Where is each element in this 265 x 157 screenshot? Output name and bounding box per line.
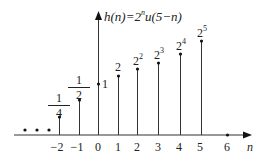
value-label-quarter: 1 4 <box>48 92 70 119</box>
tick-label: −1 <box>71 141 84 153</box>
title-text: h(n)=2 <box>104 9 141 24</box>
tick-label: 5 <box>197 141 203 153</box>
tick-label: 0 <box>95 141 101 153</box>
value-label-2: 2 <box>115 61 121 73</box>
tick-label: 1 <box>115 141 121 153</box>
frac-numerator: 1 <box>76 73 82 87</box>
frac-denominator: 4 <box>56 106 62 120</box>
function-title: h(n)=2nu(5−n) <box>104 8 182 25</box>
frac-denominator: 2 <box>76 88 82 102</box>
value-label-2-pow-5: 25 <box>197 25 207 39</box>
tick-label: −2 <box>51 141 64 153</box>
frac-numerator: 1 <box>56 91 62 105</box>
value-label-2-pow-3: 23 <box>154 47 164 61</box>
x-axis-label: n <box>247 141 253 153</box>
y-axis-arrow-icon <box>95 11 102 20</box>
tick-label: 4 <box>176 141 182 153</box>
value-label-1: 1 <box>102 78 108 90</box>
tick-label: 6 <box>224 141 230 153</box>
stem-plot: h(n)=2nu(5−n) 1 4 1 2 1 2 22 23 24 25 −2… <box>0 0 265 157</box>
ellipsis-dot <box>23 128 26 131</box>
value-label-2-pow-4: 24 <box>176 38 186 52</box>
value-label-2-pow-2: 22 <box>133 53 143 67</box>
title-suffix: u(5−n) <box>145 9 182 24</box>
ellipsis-dot <box>35 128 38 131</box>
tick-label: 2 <box>134 141 140 153</box>
ellipsis-dot <box>47 128 50 131</box>
value-label-half: 1 2 <box>68 74 90 101</box>
tick-label: 3 <box>155 141 161 153</box>
x-axis-arrow-icon <box>243 132 252 139</box>
